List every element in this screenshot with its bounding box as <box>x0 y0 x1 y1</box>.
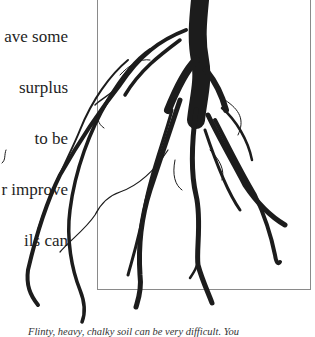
root-system-illustration <box>0 0 315 337</box>
figure-caption: Flinty, heavy, chalky soil can be very d… <box>28 326 315 337</box>
